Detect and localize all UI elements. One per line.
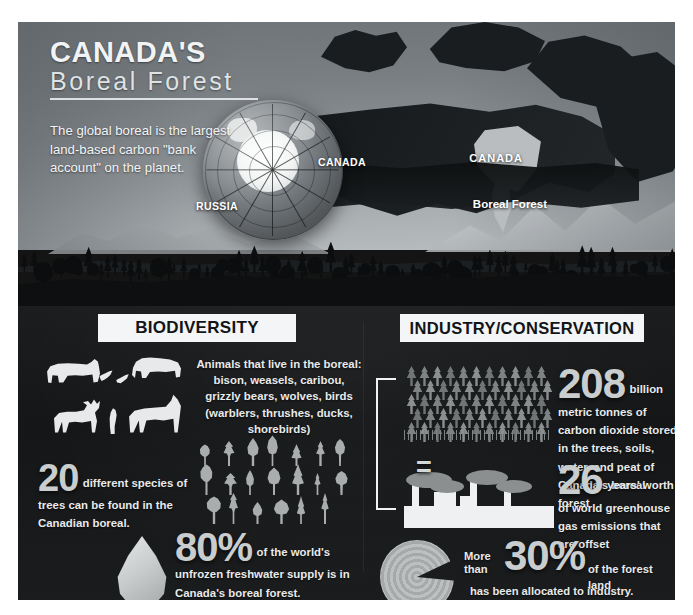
more-than-prefix: More than [464, 550, 500, 576]
factory-unit-b [460, 496, 474, 510]
globe-label-canada: CANADA [318, 156, 366, 168]
weasel-icon [106, 406, 120, 434]
intro-paragraph: The global boreal is the largest land-ba… [50, 122, 242, 178]
caribou-icon [52, 398, 102, 434]
more-than-line-2: than [464, 563, 500, 576]
tree-species-icon [243, 470, 257, 495]
allocated-text-b: has been allocated to industry. [470, 584, 633, 600]
poster-title: CANADA'S Boreal Forest [50, 38, 310, 100]
column-divider [363, 322, 364, 572]
treeline-horizon [18, 218, 675, 306]
map-arctic-island-1 [321, 28, 407, 76]
forest-tree-grid-icon [404, 366, 550, 440]
freshwater-number: 80% [175, 530, 252, 564]
tree-species-icon [227, 493, 241, 524]
map-label-canada: CANADA [469, 152, 523, 164]
allocated-number: 30% [504, 538, 585, 574]
horizon-deciduous-tree [74, 266, 83, 275]
tree-species-icon [266, 435, 280, 466]
tree-species-icon [221, 473, 241, 495]
horizon-deciduous-tree [430, 265, 442, 278]
horizon-deciduous-tree [265, 256, 281, 273]
biodiversity-heading-label: BIODIVERSITY [135, 318, 259, 338]
tree-species-icon [294, 496, 308, 524]
animals-description: Animals that live in the boreal: bison, … [196, 356, 362, 437]
forest-floor-texture [404, 430, 550, 440]
years-number: 26 [558, 462, 603, 498]
horizon-deciduous-tree [87, 263, 99, 276]
map-arctic-island-2 [425, 22, 545, 78]
tree-species-number: 20 [38, 462, 78, 495]
title-line-1: CANADA'S [50, 38, 310, 68]
tree-species-icon [311, 473, 325, 495]
factory-building [404, 506, 554, 528]
tree-species-icon [243, 438, 263, 466]
animal-silhouettes-group [46, 354, 196, 440]
equivalence-bracket [376, 378, 396, 510]
bear-icon [46, 356, 100, 386]
water-droplet-icon [113, 536, 171, 600]
tree-species-icons [196, 440, 356, 526]
tree-species-icon [198, 444, 212, 466]
factory-unit-a [434, 492, 456, 510]
industry-heading-label: INDUSTRY/CONSERVATION [410, 319, 635, 338]
tree-species-icon [311, 441, 331, 466]
bird-icon [99, 370, 113, 382]
tree-species-icon [204, 496, 224, 524]
bird-icon [116, 374, 129, 385]
tree-species-block: 20 different species of trees can be fou… [38, 462, 198, 531]
log-wedge-cutout [415, 559, 458, 588]
tree-species-icon [272, 499, 292, 524]
tree-species-icon [288, 464, 308, 495]
horizon-deciduous-tree [360, 263, 371, 274]
tree-species-icon [333, 438, 347, 466]
tree-species-icon [249, 502, 266, 524]
title-line-2: Boreal Forest [50, 68, 310, 96]
biodiversity-section-heading: BIODIVERSITY [98, 314, 296, 342]
tree-species-icon [333, 470, 350, 495]
tree-species-icon [317, 493, 334, 524]
bison-icon [132, 354, 182, 384]
smoke-cloud-2 [430, 480, 464, 493]
tree-species-icon [266, 467, 283, 495]
tree-species-icon [221, 441, 238, 466]
carbon-number: 208 [558, 366, 625, 402]
wolf-icon [128, 394, 182, 434]
industry-section-heading: INDUSTRY/CONSERVATION [400, 314, 644, 342]
equals-sign: = [416, 452, 432, 483]
smoke-cloud-4 [496, 480, 532, 493]
globe-label-russia: RUSSIA [196, 200, 238, 212]
more-than-line-1: More [464, 550, 500, 563]
title-underline [50, 98, 258, 100]
map-label-boreal-forest: Boreal Forest [473, 198, 547, 210]
horizon-conifer-tree [575, 245, 590, 277]
freshwater-block: 80% of the world's unfrozen freshwater s… [113, 530, 363, 600]
infographic-poster: CANADA Boreal Forest CANADA RUSSIA CANAD… [18, 22, 675, 600]
tree-species-icon [288, 444, 305, 466]
tree-species-icon [198, 464, 215, 495]
canada-map [275, 22, 675, 250]
